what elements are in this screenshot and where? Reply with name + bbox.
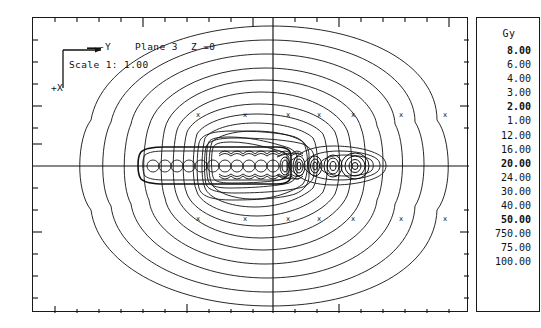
svg-text:x: x: [286, 111, 290, 119]
svg-text:x: x: [443, 111, 447, 119]
legend-level-row[interactable]: 750.00: [477, 227, 535, 241]
legend-level-row[interactable]: 3.00: [477, 86, 535, 100]
legend-level-list[interactable]: 8.006.004.003.002.001.0012.0016.0020.002…: [477, 44, 535, 270]
isodose-plot-screen: xx xx xx x xx xx xx x: [0, 0, 541, 328]
legend-level-row[interactable]: 6.00: [477, 58, 535, 72]
svg-text:x: x: [317, 111, 321, 119]
contour-plot-frame[interactable]: xx xx xx x xx xx xx x: [32, 17, 468, 312]
svg-text:x: x: [317, 215, 321, 223]
contour-plot-canvas[interactable]: xx xx xx x xx xx xx x: [33, 18, 469, 313]
legend-level-row[interactable]: 4.00: [477, 72, 535, 86]
svg-text:x: x: [196, 215, 200, 223]
svg-text:x: x: [243, 215, 247, 223]
legend-level-row[interactable]: 100.00: [477, 255, 535, 269]
svg-text:x: x: [399, 215, 403, 223]
legend-level-row[interactable]: 40.00: [477, 199, 535, 213]
svg-text:x: x: [443, 215, 447, 223]
legend-level-row[interactable]: 30.00: [477, 185, 535, 199]
axis-crosshair: [33, 18, 469, 313]
legend-level-row[interactable]: 75.00: [477, 241, 535, 255]
legend-level-row[interactable]: 12.00: [477, 129, 535, 143]
legend-level-row[interactable]: 8.00: [477, 44, 535, 58]
legend-level-row[interactable]: 24.00: [477, 171, 535, 185]
legend-level-row[interactable]: 20.00: [477, 157, 535, 171]
svg-text:x: x: [399, 111, 403, 119]
isodose-legend-panel[interactable]: Gy 8.006.004.003.002.001.0012.0016.0020.…: [476, 17, 540, 312]
svg-text:x: x: [351, 111, 355, 119]
legend-level-row[interactable]: 1.00: [477, 114, 535, 128]
svg-text:x: x: [351, 215, 355, 223]
legend-level-row[interactable]: 50.00: [477, 213, 535, 227]
legend-level-row[interactable]: 16.00: [477, 143, 535, 157]
legend-level-row[interactable]: 2.00: [477, 100, 535, 114]
svg-text:x: x: [196, 111, 200, 119]
svg-text:x: x: [286, 215, 290, 223]
legend-unit-label: Gy: [477, 28, 541, 39]
svg-text:x: x: [243, 111, 247, 119]
